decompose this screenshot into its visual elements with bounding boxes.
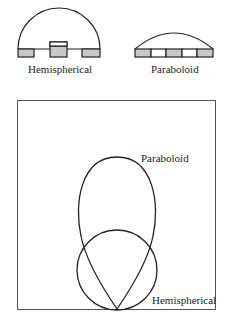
hemispherical-device (18, 8, 100, 57)
hemispherical-curve-label: Hemispherical (152, 294, 216, 306)
hemispherical-caption: Hemispherical (28, 63, 92, 75)
pattern-frame (18, 101, 216, 310)
paraboloid-curve-label: Paraboloid (141, 152, 189, 164)
base-segment-4 (182, 49, 197, 57)
raised-segment-cap (50, 42, 67, 46)
base-segment-right (82, 49, 100, 57)
paraboloid-pattern-curve (78, 157, 155, 309)
paraboloid-device (135, 33, 213, 57)
paraboloid-caption: Paraboloid (151, 63, 199, 75)
paraboloid-dome (135, 33, 213, 49)
base-segment-1 (135, 49, 151, 57)
diagram-canvas (0, 0, 228, 327)
base-segment-3 (166, 49, 182, 57)
base-segment-5 (197, 49, 213, 57)
hemispherical-pattern-curve (77, 230, 157, 310)
base-segment-left (18, 49, 34, 57)
base-segment-2 (151, 49, 166, 57)
